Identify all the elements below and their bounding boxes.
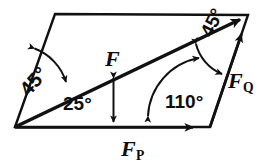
force-fq-subscript: Q: [243, 80, 254, 95]
force-fp-base: F: [121, 136, 136, 161]
angle-arc-right: [196, 44, 222, 74]
force-label-f: F: [105, 48, 120, 70]
force-label-fp: FP: [121, 138, 144, 162]
angle-label-bottom: 25°: [63, 94, 92, 113]
force-f-base: F: [105, 46, 120, 71]
force-label-fq: FQ: [228, 70, 254, 94]
force-fp-subscript: P: [136, 148, 144, 163]
force-fq-base: F: [228, 68, 243, 93]
force-parallelogram-figure: 45° 25° 45° 110° F FP FQ: [0, 0, 263, 165]
angle-label-interior: 110°: [165, 92, 203, 111]
